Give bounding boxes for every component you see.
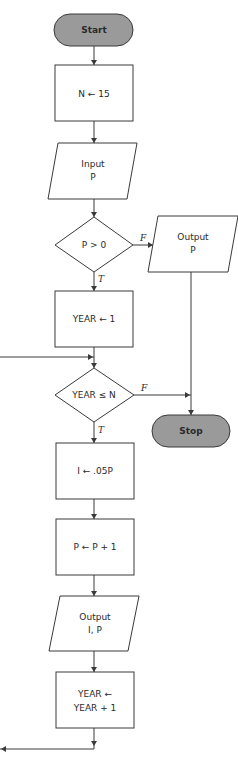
io-label-line2: P — [90, 172, 96, 182]
start-terminal: Start — [54, 14, 133, 46]
arrow-right-icon — [185, 392, 190, 398]
io-label-line2: P — [190, 245, 196, 255]
true-flag: T — [98, 425, 105, 435]
arrow-down-icon — [91, 591, 97, 596]
process-label: YEAR ← 1 — [72, 314, 116, 324]
io-input-p: Input P — [48, 143, 137, 199]
process-label: P ← P + 1 — [73, 542, 116, 552]
arrow-down-icon — [91, 286, 97, 291]
decision-p-positive: P > 0 — [55, 217, 133, 272]
decision-label: YEAR ≤ N — [71, 390, 116, 400]
process-label: I ← .05P — [77, 466, 113, 476]
io-label-line1: Output — [79, 612, 111, 622]
decision-year-le-n: YEAR ≤ N — [55, 368, 134, 422]
io-output-p: Output P — [148, 216, 238, 272]
io-output-ip: Output I, P — [49, 596, 139, 651]
arrow-down-icon — [91, 438, 97, 443]
stop-terminal: Stop — [152, 415, 230, 447]
arrow-down-icon — [91, 212, 97, 217]
false-flag: F — [139, 233, 147, 243]
flowchart-canvas: Start N ← 15 Input P P > 0 F Output P T … — [0, 0, 238, 757]
arrow-left-icon — [1, 746, 6, 752]
process-calc-interest: I ← .05P — [56, 443, 134, 499]
false-flag: F — [140, 383, 148, 393]
start-label: Start — [81, 25, 107, 35]
io-label-line1: Input — [81, 159, 105, 169]
arrow-down-icon — [91, 138, 97, 143]
arrow-down-icon — [91, 60, 97, 65]
process-set-year: YEAR ← 1 — [55, 291, 133, 347]
io-label-line2: I, P — [88, 625, 102, 635]
process-label-line2: YEAR + 1 — [73, 703, 117, 713]
decision-label: P > 0 — [82, 240, 107, 250]
process-label: N ← 15 — [78, 89, 109, 99]
arrow-down-icon — [91, 667, 97, 672]
arrow-down-icon — [91, 741, 97, 746]
process-set-n: N ← 15 — [55, 65, 133, 121]
arrow-down-icon — [91, 514, 97, 519]
arrow-right-icon — [88, 354, 93, 360]
arrow-down-icon — [91, 363, 97, 368]
stop-label: Stop — [179, 426, 203, 436]
true-flag: T — [98, 274, 105, 284]
arrow-down-icon — [188, 410, 194, 415]
process-update-p: P ← P + 1 — [56, 519, 134, 575]
process-label-line1: YEAR ← — [77, 689, 112, 699]
io-label-line1: Output — [177, 232, 209, 242]
process-inc-year: YEAR ← YEAR + 1 — [56, 672, 134, 728]
